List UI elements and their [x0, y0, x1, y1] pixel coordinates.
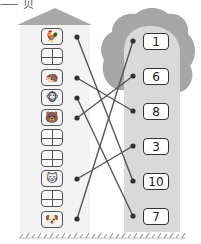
- hedgehog-icon[interactable]: 🦔: [41, 69, 63, 86]
- tree-trunk: [124, 26, 180, 232]
- dog-icon[interactable]: 🐶: [41, 211, 63, 228]
- number-box-7[interactable]: 7: [143, 208, 169, 225]
- blank-window-box: [41, 190, 63, 207]
- blank-window-box: [41, 48, 63, 65]
- monkey-icon[interactable]: 🐵: [41, 89, 63, 106]
- cat-icon[interactable]: 🐱: [41, 170, 63, 187]
- dot-left-4: [74, 95, 79, 100]
- dot-left-3: [74, 75, 79, 80]
- dot-right-7: [130, 213, 135, 218]
- roof-icon: [17, 8, 92, 25]
- dot-right-10: [130, 178, 135, 183]
- number-box-6[interactable]: 6: [143, 68, 169, 85]
- bear-icon[interactable]: 🐻: [41, 109, 63, 126]
- dot-left-8: [74, 176, 79, 181]
- dot-left-10: [74, 216, 79, 221]
- dot-left-5: [74, 115, 79, 120]
- dot-right-8: [130, 108, 135, 113]
- dot-right-1: [130, 38, 135, 43]
- dot-right-6: [130, 73, 135, 78]
- dot-left-1: [74, 34, 79, 39]
- grass-strip: [18, 233, 186, 238]
- number-box-3[interactable]: 3: [143, 138, 169, 155]
- number-box-1[interactable]: 1: [143, 33, 169, 50]
- matching-worksheet: ⸺ 贝: [0, 0, 201, 244]
- blank-window-box: [41, 150, 63, 167]
- blank-window-box: [41, 129, 63, 146]
- rooster-icon[interactable]: 🐓: [41, 28, 63, 45]
- number-box-10[interactable]: 10: [143, 173, 169, 190]
- dot-right-3: [130, 143, 135, 148]
- background-art: [0, 0, 201, 244]
- number-box-8[interactable]: 8: [143, 103, 169, 120]
